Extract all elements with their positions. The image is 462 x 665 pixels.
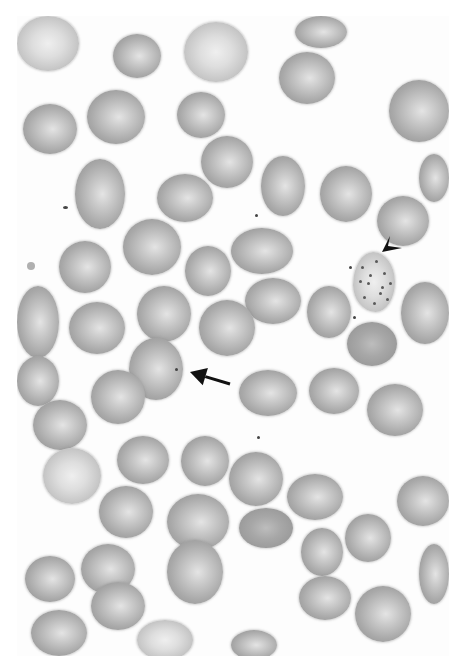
arrow-icon [190, 368, 230, 385]
arrowhead-icon [382, 236, 402, 252]
micrograph [0, 0, 462, 665]
annotation-layer [0, 0, 462, 665]
